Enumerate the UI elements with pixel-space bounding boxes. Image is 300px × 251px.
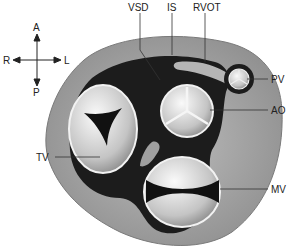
orientation-compass (13, 34, 61, 86)
ao-label: AO (271, 105, 286, 116)
heart-valve-diagram: A P R L VSD IS RVOT PV AO TV MV (0, 0, 300, 251)
anterior-label: A (33, 22, 40, 33)
vsd-label: VSD (128, 2, 149, 13)
is-label: IS (167, 2, 177, 13)
mv-label: MV (271, 184, 286, 195)
right-label: R (3, 55, 10, 66)
posterior-label: P (33, 87, 40, 98)
left-label: L (64, 55, 70, 66)
rvot-label: RVOT (193, 2, 221, 13)
tv-label: TV (36, 152, 49, 163)
pv-label: PV (271, 74, 285, 85)
